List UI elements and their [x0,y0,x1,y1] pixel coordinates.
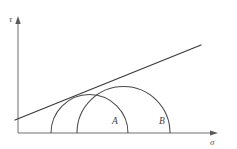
sigma-axis-label: σ [210,137,215,147]
circle-b-label: B [159,116,165,126]
failure-envelope-line [15,45,201,120]
mohr-circle-figure: τ σ A B [0,0,237,149]
figure-canvas: τ σ A B [0,0,237,149]
sigma-axis-arrow-icon [210,130,218,135]
tau-axis-arrow-icon [15,16,20,24]
circle-a-label: A [111,116,118,126]
mohr-circle-b [77,86,170,133]
tau-axis-label: τ [9,14,13,24]
